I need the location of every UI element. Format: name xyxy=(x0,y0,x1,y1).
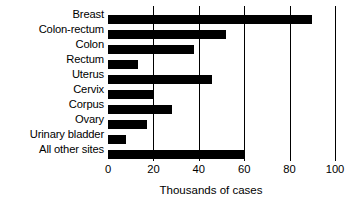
category-label: All other sites xyxy=(0,144,104,155)
category-label: Rectum xyxy=(0,54,104,65)
x-tick-label: 80 xyxy=(283,163,295,175)
x-axis-title: Thousands of cases xyxy=(0,184,358,197)
bar xyxy=(108,150,244,159)
x-tick-label: 0 xyxy=(105,163,111,175)
x-tick-label: 60 xyxy=(238,163,250,175)
bar xyxy=(108,30,226,39)
bar xyxy=(108,45,194,54)
gridline-80 xyxy=(290,6,291,161)
x-axis-tick-labels: 020406080100 xyxy=(0,163,358,179)
category-label: Colon-rectum xyxy=(0,24,104,35)
category-label: Colon xyxy=(0,39,104,50)
x-tick-label: 40 xyxy=(193,163,205,175)
bar xyxy=(108,90,153,99)
category-label: Corpus xyxy=(0,99,104,110)
category-axis: BreastColon-rectumColonRectumUterusCervi… xyxy=(0,9,104,159)
bar xyxy=(108,60,138,69)
x-tick-label: 20 xyxy=(147,163,159,175)
bar-chart: BreastColon-rectumColonRectumUterusCervi… xyxy=(0,0,358,206)
bar xyxy=(108,105,172,114)
category-label: Cervix xyxy=(0,84,104,95)
x-tick-label: 100 xyxy=(326,163,345,175)
bar xyxy=(108,135,126,144)
category-label: Uterus xyxy=(0,69,104,80)
plot-area xyxy=(108,6,358,161)
category-label: Urinary bladder xyxy=(0,129,104,140)
gridline-60 xyxy=(244,6,245,161)
x-axis-title-text: Thousands of cases xyxy=(160,184,263,197)
category-label: Ovary xyxy=(0,114,104,125)
bar xyxy=(108,75,212,84)
bar xyxy=(108,15,312,24)
gridline-100 xyxy=(335,6,336,161)
bar xyxy=(108,120,147,129)
category-label: Breast xyxy=(0,9,104,20)
